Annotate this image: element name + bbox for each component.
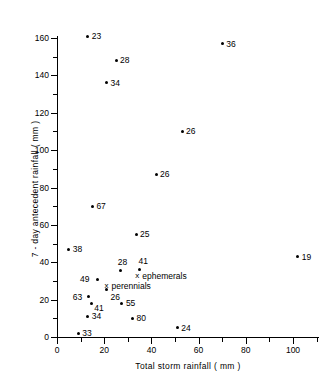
- y-tick-120: [51, 113, 57, 114]
- x-tick-100: [293, 338, 294, 344]
- x-minor-tick-30: [128, 338, 129, 342]
- data-point-label: 49: [80, 275, 89, 284]
- data-point-label: 34: [92, 312, 101, 321]
- x-tick-40: [151, 338, 152, 344]
- y-tick-100: [51, 150, 57, 151]
- data-point-label: 28: [120, 56, 129, 65]
- data-point: [296, 255, 299, 258]
- y-tick-label-20: 20: [9, 296, 49, 305]
- x-minor-tick-10: [81, 338, 82, 342]
- y-minor-tick-70: [53, 206, 57, 207]
- data-point-label: 38: [73, 245, 82, 254]
- x-tick-label-60: 60: [184, 346, 214, 355]
- x-minor-tick-70: [222, 338, 223, 342]
- y-minor-tick-130: [53, 94, 57, 95]
- x-tick-label-100: 100: [278, 346, 308, 355]
- y-tick-60: [51, 225, 57, 226]
- y-minor-tick-150: [53, 57, 57, 58]
- x-tick-label-20: 20: [89, 346, 119, 355]
- data-point-label: 24: [181, 324, 190, 333]
- data-point: [221, 42, 224, 45]
- data-point: [155, 173, 158, 176]
- x-minor-tick-50: [175, 338, 176, 342]
- data-point-label: 33: [82, 329, 91, 338]
- x-tick-label-80: 80: [231, 346, 261, 355]
- data-point: [67, 248, 70, 251]
- y-minor-tick-50: [53, 244, 57, 245]
- y-tick-20: [51, 300, 57, 301]
- data-point-label: 55: [126, 299, 135, 308]
- x-axis-title: Total storm rainfall ( mm ): [57, 361, 319, 371]
- y-tick-160: [51, 38, 57, 39]
- data-point-label: 63: [73, 293, 82, 302]
- x-minor-tick-90: [269, 338, 270, 342]
- y-minor-tick-30: [53, 281, 57, 282]
- x-tick-60: [199, 338, 200, 344]
- x-axis-line: [57, 337, 319, 338]
- legend-marker-perennials: x: [105, 282, 109, 290]
- y-tick-label-140: 140: [9, 71, 49, 80]
- y-tick-80: [51, 188, 57, 189]
- data-point: [131, 317, 134, 320]
- y-axis-line: [57, 36, 58, 338]
- data-point: [135, 233, 138, 236]
- x-tick-80: [246, 338, 247, 344]
- data-point: [105, 81, 108, 84]
- data-point-label: 28: [118, 258, 127, 267]
- data-point-label: 23: [92, 32, 101, 41]
- y-minor-tick-90: [53, 169, 57, 170]
- data-point-label: 26: [186, 127, 195, 136]
- legend-label-perennials: perennials: [112, 282, 151, 291]
- data-point-label: 26: [111, 293, 120, 302]
- data-point-label: 26: [160, 170, 169, 179]
- data-point: [120, 302, 123, 305]
- data-point: [86, 35, 89, 38]
- y-tick-40: [51, 262, 57, 263]
- data-point: [115, 59, 118, 62]
- data-point-label: 80: [137, 314, 146, 323]
- data-point: [119, 269, 122, 272]
- data-point-label: 67: [96, 202, 105, 211]
- y-tick-140: [51, 75, 57, 76]
- x-minor-tick-110: [317, 338, 318, 342]
- y-tick-label-120: 120: [9, 109, 49, 118]
- x-tick-label-40: 40: [136, 346, 166, 355]
- data-point-label: 41: [139, 257, 148, 266]
- data-point: [176, 326, 179, 329]
- data-point: [77, 332, 80, 335]
- legend-label-ephemerals: ephemerals: [142, 272, 186, 281]
- data-point: [96, 278, 99, 281]
- data-point: [91, 205, 94, 208]
- y-minor-tick-10: [53, 318, 57, 319]
- y-tick-label-40: 40: [9, 258, 49, 267]
- data-point-label: 19: [302, 253, 311, 262]
- x-tick-20: [104, 338, 105, 344]
- y-tick-label-0: 0: [9, 333, 49, 342]
- y-tick-label-80: 80: [9, 184, 49, 193]
- y-minor-tick-110: [53, 131, 57, 132]
- y-tick-label-60: 60: [9, 221, 49, 230]
- data-point-label: 36: [226, 40, 235, 49]
- data-point-label: 25: [140, 230, 149, 239]
- data-point-label: 34: [111, 79, 120, 88]
- data-point: [90, 302, 93, 305]
- data-point: [86, 315, 89, 318]
- x-tick-label-0: 0: [42, 346, 72, 355]
- legend-marker-ephemerals: x: [135, 272, 139, 280]
- y-axis-title: 7 - day antecedent rainfall ( mm ): [30, 39, 40, 339]
- scatter-plot: 020406080100120140160020406080100 233628…: [0, 0, 325, 384]
- y-tick-label-100: 100: [9, 146, 49, 155]
- y-tick-label-160: 160: [9, 34, 49, 43]
- data-point: [181, 130, 184, 133]
- data-point: [87, 295, 90, 298]
- x-tick-0: [57, 338, 58, 344]
